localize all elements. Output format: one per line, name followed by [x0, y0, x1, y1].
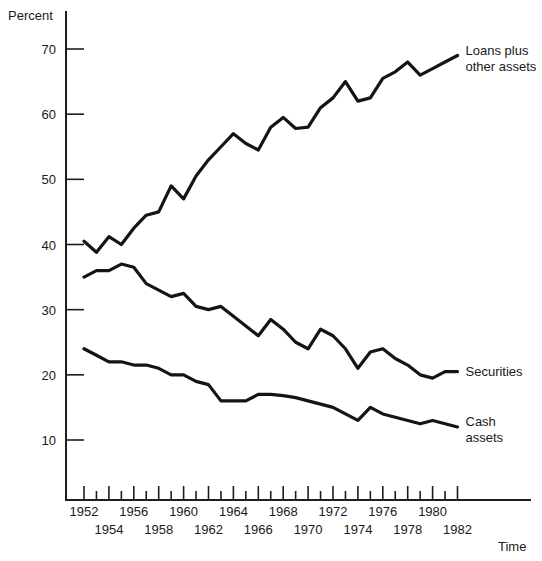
y-axis-title: Percent: [8, 8, 53, 23]
series-lines: [84, 56, 458, 427]
x-tick-label: 1958: [144, 522, 173, 537]
series-label-0-line1: Loans plus: [466, 43, 529, 58]
series-label-0-line2: other assets: [466, 59, 537, 74]
x-tick-label: 1976: [368, 504, 397, 519]
x-tick-label: 1966: [244, 522, 273, 537]
x-tick-label: 1982: [443, 522, 472, 537]
line-chart: 70605040302010 1952195619601964196819721…: [0, 0, 542, 561]
series-labels: Loans plusother assetsSecuritiesCashasse…: [466, 43, 537, 445]
x-tick-label: 1968: [269, 504, 298, 519]
series-line-1: [84, 264, 458, 378]
axis-frame: [66, 12, 530, 500]
y-tick-label: 50: [42, 172, 56, 187]
series-line-0: [84, 56, 458, 253]
y-tick-label: 60: [42, 107, 56, 122]
y-tick-label: 30: [42, 303, 56, 318]
y-tick-label: 70: [42, 42, 56, 57]
y-tick-label: 20: [42, 368, 56, 383]
series-label-2-line2: assets: [466, 430, 504, 445]
x-tick-label: 1956: [119, 504, 148, 519]
x-axis-ticks: 1952195619601964196819721976198019541958…: [70, 486, 472, 537]
x-tick-label: 1980: [418, 504, 447, 519]
y-axis-ticks: 70605040302010: [42, 42, 84, 448]
x-tick-label: 1962: [194, 522, 223, 537]
chart-container: 70605040302010 1952195619601964196819721…: [0, 0, 542, 561]
axis-lines: [66, 12, 530, 500]
x-tick-label: 1964: [219, 504, 248, 519]
x-tick-label: 1978: [393, 522, 422, 537]
series-label-2-line1: Cash: [466, 414, 496, 429]
x-tick-label: 1954: [94, 522, 123, 537]
x-tick-label: 1952: [70, 504, 99, 519]
x-tick-label: 1972: [319, 504, 348, 519]
x-tick-label: 1960: [169, 504, 198, 519]
series-label-1-line1: Securities: [466, 364, 524, 379]
y-tick-label: 10: [42, 433, 56, 448]
x-tick-label: 1970: [294, 522, 323, 537]
axis-titles: PercentTime: [8, 8, 526, 554]
y-tick-label: 40: [42, 238, 56, 253]
x-tick-label: 1974: [343, 522, 372, 537]
x-axis-title: Time: [498, 539, 526, 554]
